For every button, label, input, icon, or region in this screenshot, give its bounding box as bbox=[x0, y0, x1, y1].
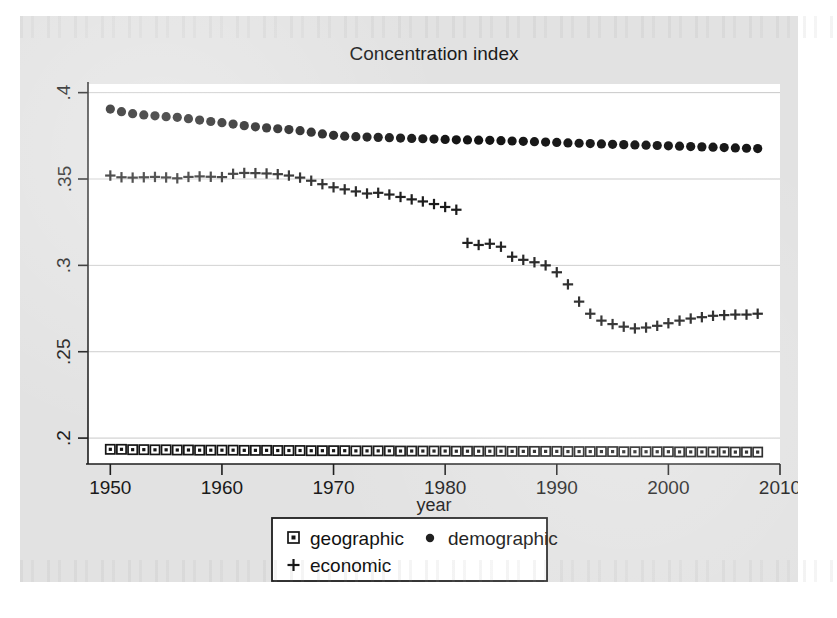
data-point-square-core bbox=[455, 450, 458, 453]
x-tick-label: 1950 bbox=[89, 477, 131, 498]
data-point-circle bbox=[653, 141, 662, 150]
data-point-square-core bbox=[410, 449, 413, 452]
data-point-square-core bbox=[633, 450, 636, 453]
data-point-square-core bbox=[555, 450, 558, 453]
data-point-square-core bbox=[622, 450, 625, 453]
data-point-circle bbox=[173, 113, 182, 122]
data-point-square-core bbox=[444, 449, 447, 452]
data-point-square-core bbox=[734, 450, 737, 453]
legend-label-demographic: demographic bbox=[448, 528, 558, 549]
data-point-square-core bbox=[231, 449, 234, 452]
data-point-square-core bbox=[644, 450, 647, 453]
data-point-circle bbox=[351, 132, 360, 141]
data-point-square-core bbox=[756, 450, 759, 453]
data-point-square-core bbox=[153, 448, 156, 451]
data-point-square-core bbox=[723, 450, 726, 453]
data-point-circle bbox=[731, 143, 740, 152]
data-point-square-core bbox=[377, 449, 380, 452]
data-point-circle bbox=[240, 121, 249, 130]
data-point-square-core bbox=[142, 448, 145, 451]
circle-marker-icon bbox=[426, 534, 434, 542]
data-point-circle bbox=[385, 133, 394, 142]
data-point-square-core bbox=[745, 450, 748, 453]
data-point-square-core bbox=[566, 450, 569, 453]
data-point-square-core bbox=[656, 450, 659, 453]
y-axis-ticks bbox=[78, 93, 88, 438]
data-point-circle bbox=[162, 112, 171, 121]
data-point-square-core bbox=[577, 450, 580, 453]
data-point-circle bbox=[586, 139, 595, 148]
data-point-square-core bbox=[466, 450, 469, 453]
data-point-circle bbox=[251, 122, 260, 131]
data-point-circle bbox=[128, 109, 137, 118]
data-point-square-core bbox=[488, 450, 491, 453]
data-point-circle bbox=[597, 139, 606, 148]
data-point-circle bbox=[720, 143, 729, 152]
data-point-circle bbox=[641, 141, 650, 150]
data-point-circle bbox=[686, 142, 695, 151]
legend-label-geographic: geographic bbox=[310, 528, 404, 549]
data-point-circle bbox=[117, 107, 126, 116]
data-point-circle bbox=[307, 128, 316, 137]
data-point-square-core bbox=[522, 450, 525, 453]
data-point-circle bbox=[463, 135, 472, 144]
data-point-square-core bbox=[243, 449, 246, 452]
data-point-square-core bbox=[388, 449, 391, 452]
data-point-circle bbox=[396, 133, 405, 142]
y-tick-label: .2 bbox=[54, 430, 75, 446]
data-point-square-core bbox=[220, 449, 223, 452]
data-point-square-core bbox=[511, 450, 514, 453]
data-point-square-core bbox=[354, 449, 357, 452]
x-tick-label: 1970 bbox=[312, 477, 354, 498]
data-point-square-core bbox=[343, 449, 346, 452]
data-point-square-core bbox=[332, 449, 335, 452]
data-point-circle bbox=[485, 136, 494, 145]
data-point-square-core bbox=[399, 449, 402, 452]
data-point-circle bbox=[284, 125, 293, 134]
data-point-circle bbox=[418, 134, 427, 143]
data-point-circle bbox=[608, 140, 617, 149]
data-point-square-core bbox=[287, 449, 290, 452]
data-point-circle bbox=[519, 137, 528, 146]
y-tick-label: .4 bbox=[54, 84, 75, 100]
data-point-square-core bbox=[109, 448, 112, 451]
data-point-circle bbox=[150, 111, 159, 120]
x-axis-ticks bbox=[110, 464, 780, 475]
data-point-square-core bbox=[678, 450, 681, 453]
x-tick-label: 1990 bbox=[536, 477, 578, 498]
data-point-square-core bbox=[265, 449, 268, 452]
data-point-circle bbox=[329, 131, 338, 140]
data-point-circle bbox=[563, 138, 572, 147]
square-marker-core-icon bbox=[292, 536, 296, 540]
data-point-circle bbox=[708, 143, 717, 152]
data-point-square-core bbox=[131, 448, 134, 451]
data-point-square-core bbox=[310, 449, 313, 452]
data-point-circle bbox=[195, 116, 204, 125]
data-point-circle bbox=[139, 110, 148, 119]
data-point-square-core bbox=[711, 450, 714, 453]
data-point-square-core bbox=[477, 450, 480, 453]
data-point-square-core bbox=[198, 449, 201, 452]
data-point-square-core bbox=[187, 448, 190, 451]
data-point-circle bbox=[318, 129, 327, 138]
data-point-square-core bbox=[120, 448, 123, 451]
data-point-circle bbox=[496, 136, 505, 145]
data-point-square-core bbox=[321, 449, 324, 452]
data-point-circle bbox=[362, 132, 371, 141]
data-point-square-core bbox=[432, 449, 435, 452]
data-point-square-core bbox=[589, 450, 592, 453]
series-geographic bbox=[106, 445, 763, 457]
data-point-circle bbox=[184, 114, 193, 123]
data-point-square-core bbox=[499, 450, 502, 453]
data-point-square-core bbox=[700, 450, 703, 453]
data-point-circle bbox=[675, 142, 684, 151]
x-axis-label: year bbox=[416, 495, 451, 515]
x-tick-label: 2000 bbox=[647, 477, 689, 498]
data-point-circle bbox=[530, 137, 539, 146]
data-point-circle bbox=[106, 104, 115, 113]
data-point-square-core bbox=[667, 450, 670, 453]
y-axis-tick-labels: .2.25.3.35.4 bbox=[54, 84, 75, 446]
data-point-square-core bbox=[298, 449, 301, 452]
data-point-square-core bbox=[544, 450, 547, 453]
data-point-square-core bbox=[209, 449, 212, 452]
